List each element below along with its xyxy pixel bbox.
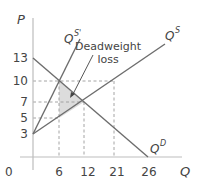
x-axis-label: Q (180, 164, 190, 179)
x-tick-12: 12 (80, 165, 95, 179)
svg-text:Q: Q (165, 29, 174, 43)
y-tick-10: 10 (13, 74, 28, 88)
x-tick-6: 6 (55, 165, 63, 179)
chart-canvas: P Q 0 13 10 7 5 3 6 12 21 26 Q D Q S Q S… (0, 0, 198, 184)
annotation-line1: Deadweight (75, 40, 142, 53)
x-tick-26: 26 (141, 165, 156, 179)
demand-curve-label: Q D (150, 139, 166, 156)
svg-text:Q: Q (64, 32, 73, 46)
svg-text:D: D (160, 139, 166, 148)
x-tick-21: 21 (109, 165, 124, 179)
svg-text:Q: Q (150, 142, 159, 156)
demand-curve (33, 58, 148, 157)
svg-text:S: S (175, 26, 180, 35)
shifted-supply-curve (33, 39, 80, 134)
annotation-line2: loss (97, 53, 119, 66)
y-tick-7: 7 (20, 95, 28, 109)
svg-text:S': S' (74, 29, 81, 38)
y-tick-3: 3 (20, 127, 28, 141)
y-axis-label: P (17, 12, 25, 27)
y-tick-5: 5 (20, 111, 28, 125)
supply-curve-label: Q S (165, 26, 180, 43)
y-tick-13: 13 (13, 51, 28, 65)
origin-label: 0 (5, 165, 13, 179)
annotation-pointer (72, 55, 93, 96)
